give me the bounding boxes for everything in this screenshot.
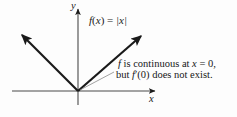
curve-left-arm [22,35,78,91]
annotation-line-1: f is continuous at x = 0, [118,59,216,70]
annotation-line-2: but f′(0) does not exist. [116,70,213,81]
annotation1-text: is continuous at [121,58,192,69]
y-axis-label: y [71,1,76,12]
annotation1-tail: = 0, [197,58,216,69]
absolute-value-figure: y x f(x) = |x| f is continuous at x = 0,… [0,0,237,117]
x-axis-label: x [149,94,154,105]
annotation2-tail: (0) does not exist. [137,69,212,80]
function-equation-label: f(x) = |x| [89,15,127,26]
equation-equals: = [104,14,116,26]
equation-abs-x: |x| [116,14,127,26]
annotation2-pre: but [116,69,132,80]
